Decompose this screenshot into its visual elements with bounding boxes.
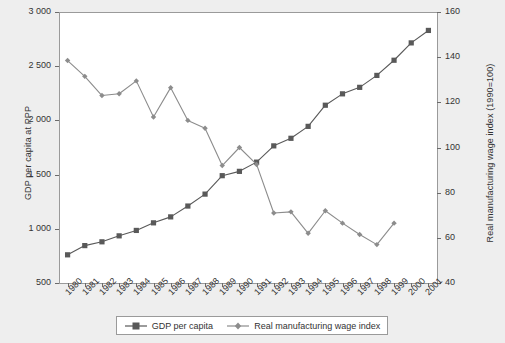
left-axis-ticks (55, 13, 59, 284)
data-point-marker (168, 214, 173, 219)
data-point-marker (134, 228, 139, 233)
data-point-marker (323, 103, 328, 108)
legend-marker-square-line (124, 321, 148, 331)
right-tick-label: 120 (445, 96, 460, 106)
plot-background (59, 12, 437, 283)
right-axis-title: Real manufacturing wage index (1990=100) (485, 53, 495, 253)
data-point-marker (306, 124, 311, 129)
data-point-marker (426, 28, 431, 33)
data-point-marker (65, 252, 70, 257)
data-point-marker (409, 40, 414, 45)
data-point-marker (288, 136, 293, 141)
left-tick-label: 2 000 (0, 114, 51, 124)
data-point-marker (202, 192, 207, 197)
data-point-marker (237, 169, 242, 174)
left-axis-title: GDP per capita at PPP (23, 68, 33, 238)
left-tick-label: 2 500 (0, 60, 51, 70)
right-tick-label: 100 (445, 142, 460, 152)
legend-label-gdp: GDP per capita (152, 321, 213, 331)
data-point-marker (391, 58, 396, 63)
right-axis-ticks (437, 13, 441, 284)
right-tick-label: 160 (445, 6, 460, 16)
left-tick-label: 1 000 (0, 223, 51, 233)
right-tick-label: 140 (445, 51, 460, 61)
chart-legend: GDP per capita Real manufacturing wage i… (116, 316, 388, 335)
data-point-marker (99, 239, 104, 244)
legend-item-gdp: GDP per capita (124, 321, 213, 331)
right-tick-label: 40 (445, 277, 455, 287)
data-point-marker (82, 243, 87, 248)
data-point-marker (357, 85, 362, 90)
legend-label-wage-index: Real manufacturing wage index (254, 321, 380, 331)
left-tick-label: 3 000 (0, 6, 51, 16)
data-point-marker (220, 173, 225, 178)
right-tick-label: 60 (445, 232, 455, 242)
data-point-marker (340, 91, 345, 96)
left-tick-label: 1 500 (0, 169, 51, 179)
left-tick-label: 500 (0, 277, 51, 287)
data-point-marker (374, 73, 379, 78)
right-tick-label: 80 (445, 187, 455, 197)
data-point-marker (151, 220, 156, 225)
data-point-marker (185, 203, 190, 208)
legend-marker-diamond-line (226, 321, 250, 331)
data-point-marker (271, 143, 276, 148)
data-point-marker (117, 233, 122, 238)
legend-item-wage-index: Real manufacturing wage index (226, 321, 380, 331)
chart-figure: GDP per capita at PPP Real manufacturing… (0, 0, 505, 343)
